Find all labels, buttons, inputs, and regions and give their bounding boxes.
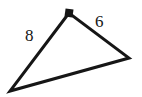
left-side-length-label: 8 xyxy=(25,27,34,44)
triangle-outline xyxy=(10,13,129,91)
geometry-figure: 8 6 xyxy=(0,0,142,97)
right-side-length-label: 6 xyxy=(95,13,104,30)
right-angle-marker-icon xyxy=(64,8,73,17)
right-triangle-drawing xyxy=(0,0,142,97)
